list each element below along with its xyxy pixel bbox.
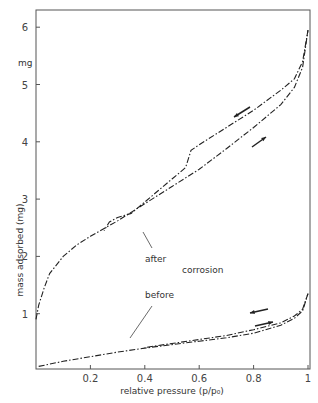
series-line	[104, 30, 308, 231]
y-unit-label: mg	[18, 58, 32, 68]
y-axis-label: mass adsorbed (mg)	[15, 204, 25, 297]
series-line	[39, 294, 308, 367]
x-tick-label: 0.8	[246, 373, 262, 384]
annotation-corrosion: corrosion	[182, 265, 223, 275]
isotherm-chart: 123456 0.20.40.60.81 aftercorrosionbefor…	[0, 0, 318, 403]
y-tick-label: 6	[22, 22, 28, 33]
series-line	[145, 294, 308, 348]
series-line	[36, 30, 308, 319]
direction-arrows	[234, 107, 273, 326]
x-tick-label: 1	[305, 373, 311, 384]
y-tick-label: 5	[22, 80, 28, 91]
x-axis-label: relative pressure (p/p₀)	[120, 386, 224, 396]
y-tick-label: 3	[22, 194, 28, 205]
y-tick-label: 4	[22, 137, 28, 148]
x-tick-label: 0.2	[82, 373, 98, 384]
x-tick-label: 0.4	[137, 373, 153, 384]
annotation-before: before	[145, 290, 174, 300]
x-axis: 0.20.40.60.81	[82, 365, 311, 384]
plot-frame	[36, 10, 310, 369]
y-tick-label: 1	[22, 309, 28, 320]
annotation-after: after	[145, 254, 167, 264]
annotations: aftercorrosionbefore	[130, 232, 223, 338]
data-series	[36, 30, 308, 366]
x-tick-label: 0.6	[191, 373, 207, 384]
